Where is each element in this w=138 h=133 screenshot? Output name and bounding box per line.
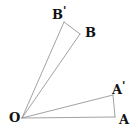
prime-mark-B: ' <box>63 4 66 17</box>
figure-background <box>0 0 138 133</box>
vertex-label-B-text: B <box>85 25 96 40</box>
prime-mark-A: ' <box>122 79 125 92</box>
vertex-label-A-prime-text: A <box>112 82 122 97</box>
vertex-label-B-prime: B' <box>52 5 66 21</box>
vertex-label-B: B <box>85 26 96 39</box>
vertex-label-A-prime: A' <box>112 80 125 96</box>
diagram-canvas <box>0 0 138 133</box>
vertex-label-A-text: A <box>119 112 129 127</box>
vertex-label-B-prime-text: B <box>52 7 63 22</box>
vertex-label-O: O <box>9 111 20 124</box>
geometry-figure: O A A' B B' <box>0 0 138 133</box>
vertex-label-A: A <box>119 113 129 126</box>
vertex-label-O-text: O <box>9 110 20 125</box>
